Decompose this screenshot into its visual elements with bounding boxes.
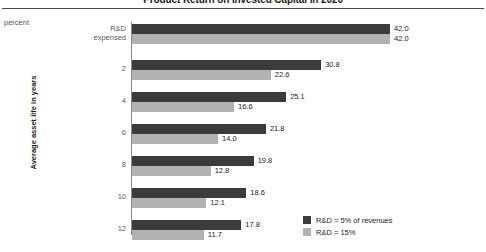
bar-group: 819.812.8	[0, 156, 486, 178]
bars: 21.814.0	[132, 124, 450, 144]
category-label: 2	[60, 64, 126, 73]
bar-value-series-0: 42.0	[394, 24, 409, 34]
bar-group: R&Dexpensed42.042.0	[0, 24, 486, 46]
legend-swatch-series-1	[303, 228, 311, 236]
bar-group: 230.822.6	[0, 60, 486, 82]
bar-series-0[interactable]	[132, 220, 241, 230]
bar-series-1[interactable]	[132, 166, 211, 176]
chart-container: Product Return on Invested Capital in 20…	[0, 0, 486, 252]
legend-label-series-1: R&D = 15%	[316, 227, 355, 239]
bar-series-1[interactable]	[132, 34, 390, 44]
bars: 19.812.8	[132, 156, 450, 176]
bar-series-0[interactable]	[132, 24, 390, 34]
category-label: 12	[60, 224, 126, 233]
category-label: 6	[60, 128, 126, 137]
legend-swatch-series-0	[303, 216, 311, 224]
bar-series-1[interactable]	[132, 134, 218, 144]
bar-value-series-1: 14.0	[222, 134, 237, 144]
bar-series-1[interactable]	[132, 102, 234, 112]
bars: 42.042.0	[132, 24, 450, 44]
bar-value-series-1: 22.6	[275, 70, 290, 80]
category-label: 4	[60, 96, 126, 105]
bar-value-series-0: 21.8	[270, 124, 285, 134]
bar-value-series-0: 25.1	[290, 92, 305, 102]
bar-value-series-0: 19.8	[258, 156, 273, 166]
bar-series-0[interactable]	[132, 156, 254, 166]
bar-series-1[interactable]	[132, 198, 206, 208]
bars: 30.822.6	[132, 60, 450, 80]
bar-series-0[interactable]	[132, 188, 246, 198]
legend-item-series-1: R&D = 15%	[303, 224, 393, 236]
chart-legend: R&D = 5% of revenues R&D = 15%	[303, 212, 393, 236]
bar-value-series-1: 11.7	[208, 230, 222, 240]
title-divider	[2, 8, 484, 9]
bar-value-series-1: 12.8	[215, 166, 230, 176]
bar-group: 1217.811.7	[0, 220, 486, 242]
legend-item-series-0: R&D = 5% of revenues	[303, 212, 393, 224]
category-label-line2: expensed	[60, 33, 126, 42]
bar-group: 621.814.0	[0, 124, 486, 146]
bar-value-series-1: 42.0	[394, 34, 409, 44]
bar-series-1[interactable]	[132, 230, 204, 240]
bar-series-0[interactable]	[132, 92, 286, 102]
chart-title: Product Return on Invested Capital in 20…	[0, 0, 486, 6]
bar-value-series-1: 16.6	[238, 102, 253, 112]
category-label: 8	[60, 160, 126, 169]
bar-series-0[interactable]	[132, 124, 266, 134]
bar-series-0[interactable]	[132, 60, 321, 70]
bar-group: 1018.612.1	[0, 188, 486, 210]
category-label-line1: R&D	[60, 24, 126, 33]
category-label: R&Dexpensed	[60, 24, 126, 42]
bars: 25.116.6	[132, 92, 450, 112]
bar-value-series-0: 18.6	[250, 188, 265, 198]
category-label: 10	[60, 192, 126, 201]
bar-value-series-0: 30.8	[325, 60, 340, 70]
bar-series-1[interactable]	[132, 70, 271, 80]
bar-value-series-1: 12.1	[210, 198, 225, 208]
bars: 18.612.1	[132, 188, 450, 208]
bars: 17.811.7	[132, 220, 450, 240]
bar-value-series-0: 17.8	[245, 220, 260, 230]
bar-group: 425.116.6	[0, 92, 486, 114]
plot-area: Average asset life in years R&Dexpensed4…	[0, 22, 486, 240]
